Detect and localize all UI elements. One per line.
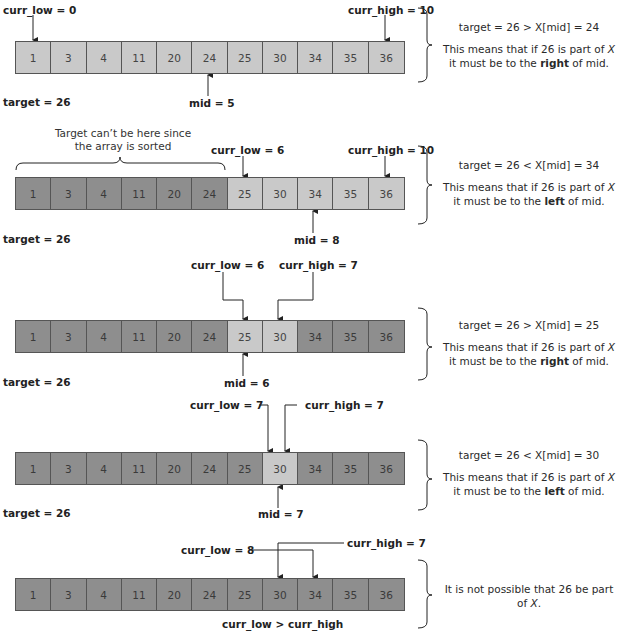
- array-cell: 35: [333, 453, 368, 484]
- explanation-text: it must be to the: [449, 355, 540, 367]
- array-cell: 4: [87, 42, 122, 73]
- conclusion-text: It is not possible that 26 be part of: [445, 583, 614, 609]
- curr-low-arrow-3: [223, 272, 243, 319]
- array-cell: 35: [333, 178, 368, 209]
- array-cell: 25: [228, 178, 263, 209]
- step-note: target = 26 < X[mid] = 30 This means tha…: [440, 448, 618, 498]
- step-note: target = 26 > X[mid] = 24 This means tha…: [440, 20, 618, 70]
- array-cell: 36: [369, 453, 404, 484]
- array-cell: 24: [192, 42, 227, 73]
- array-row: 1 3 4 11 20 24 25 30 34 35 36: [15, 177, 405, 210]
- array-cell: 3: [51, 453, 86, 484]
- target-label: target = 26: [3, 233, 71, 245]
- array-cell: 20: [157, 178, 192, 209]
- array-cell: 4: [87, 453, 122, 484]
- curr-low-label: curr_low = 6: [211, 144, 284, 156]
- array-cell: 25: [228, 321, 263, 352]
- array-cell: 30: [263, 178, 298, 209]
- array-cell: 34: [298, 42, 333, 73]
- array-row: 1 3 4 11 20 24 25 30 34 35 36: [15, 578, 405, 611]
- array-cell: 24: [192, 453, 227, 484]
- array-cell: 36: [369, 178, 404, 209]
- array-cell: 36: [369, 321, 404, 352]
- array-cell: 34: [298, 321, 333, 352]
- note-brace-1: [418, 8, 432, 82]
- array-cell: 1: [16, 42, 51, 73]
- array-cell: 35: [333, 579, 368, 610]
- direction-text: left: [544, 485, 564, 497]
- array-cell: 11: [122, 579, 157, 610]
- curr-high-arrow-5: [278, 543, 344, 577]
- note-brace-5: [418, 560, 432, 628]
- array-cell: 20: [157, 579, 192, 610]
- explanation-text: of mid.: [565, 195, 605, 207]
- array-cell: 3: [51, 42, 86, 73]
- array-cell: 3: [51, 178, 86, 209]
- note-brace-3: [418, 308, 432, 380]
- step-note: target = 26 < X[mid] = 34 This means tha…: [440, 158, 618, 208]
- mid-label: mid = 7: [258, 508, 303, 520]
- explanation-text: This means that if 26 is part of: [443, 341, 608, 353]
- array-cell: 1: [16, 579, 51, 610]
- explanation-text: This means that if 26 is part of: [443, 471, 608, 483]
- explanation-text: This means that if 26 is part of: [443, 43, 608, 55]
- array-cell: 24: [192, 321, 227, 352]
- curr-high-label: curr_high = 10: [348, 144, 434, 156]
- note-brace-4: [418, 440, 432, 510]
- mid-label: mid = 6: [224, 377, 269, 389]
- direction-text: right: [540, 57, 569, 69]
- array-cell: 30: [263, 453, 298, 484]
- array-row: 1 3 4 11 20 24 25 30 34 35 36: [15, 452, 405, 485]
- explanation-text: of mid.: [565, 485, 605, 497]
- set-name: X: [608, 181, 615, 193]
- array-cell: 11: [122, 42, 157, 73]
- curr-low-label: curr_low = 6: [191, 259, 264, 271]
- array-cell: 35: [333, 42, 368, 73]
- array-row: 1 3 4 11 20 24 25 30 34 35 36: [15, 320, 405, 353]
- curr-high-label: curr_high = 7: [279, 259, 358, 271]
- array-cell: 11: [122, 453, 157, 484]
- array-cell: 35: [333, 321, 368, 352]
- array-cell: 11: [122, 321, 157, 352]
- explanation-text: of mid.: [569, 355, 609, 367]
- curr-high-label: curr_high = 7: [347, 537, 426, 549]
- explanation-text: it must be to the: [449, 57, 540, 69]
- direction-text: left: [544, 195, 564, 207]
- array-cell: 30: [263, 579, 298, 610]
- comparison-text: target = 26 < X[mid] = 30: [440, 448, 618, 462]
- curr-low-label: curr_low = 0: [3, 4, 76, 16]
- comparison-text: target = 26 > X[mid] = 24: [440, 20, 618, 34]
- curr-high-label: curr_high = 7: [305, 399, 384, 411]
- target-label: target = 26: [3, 507, 71, 519]
- set-name: X: [608, 341, 615, 353]
- array-cell: 4: [87, 579, 122, 610]
- set-name: X: [608, 471, 615, 483]
- array-cell: 3: [51, 579, 86, 610]
- array-cell: 25: [228, 453, 263, 484]
- comparison-text: target = 26 > X[mid] = 25: [440, 318, 618, 332]
- mid-label: mid = 5: [189, 97, 234, 109]
- step-note: target = 26 > X[mid] = 25 This means tha…: [440, 318, 618, 368]
- array-cell: 20: [157, 42, 192, 73]
- array-cell: 24: [192, 579, 227, 610]
- array-cell: 30: [263, 42, 298, 73]
- array-cell: 25: [228, 42, 263, 73]
- array-row: 1 3 4 11 20 24 25 30 34 35 36: [15, 41, 405, 74]
- excluded-note: Target can’t be here since the array is …: [48, 127, 198, 153]
- array-cell: 4: [87, 321, 122, 352]
- array-cell: 1: [16, 453, 51, 484]
- curr-low-label: curr_low = 8: [181, 544, 254, 556]
- note-brace-2: [418, 146, 432, 224]
- condition-label: curr_low > curr_high: [222, 618, 343, 630]
- array-cell: 34: [298, 178, 333, 209]
- set-name: X: [530, 597, 537, 609]
- array-cell: 25: [228, 579, 263, 610]
- curr-high-arrow-3: [278, 272, 313, 319]
- curr-low-label: curr_low = 7: [190, 399, 263, 411]
- array-cell: 1: [16, 321, 51, 352]
- array-cell: 34: [298, 453, 333, 484]
- array-cell: 1: [16, 178, 51, 209]
- conclusion-text: .: [538, 597, 541, 609]
- target-label: target = 26: [3, 96, 71, 108]
- array-cell: 36: [369, 579, 404, 610]
